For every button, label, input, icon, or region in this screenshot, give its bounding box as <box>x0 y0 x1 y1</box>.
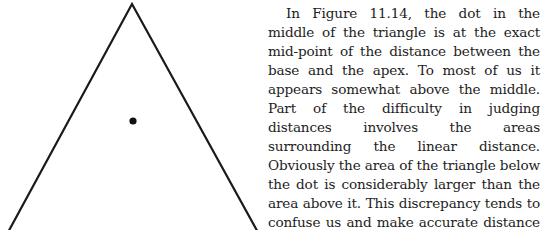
triangle-outline <box>6 4 260 230</box>
midpoint-dot <box>129 117 136 124</box>
triangle-figure <box>0 0 266 230</box>
triangle-illustration <box>0 0 266 230</box>
body-paragraph: In Figure 11.14, the dot in the middle o… <box>268 4 540 230</box>
